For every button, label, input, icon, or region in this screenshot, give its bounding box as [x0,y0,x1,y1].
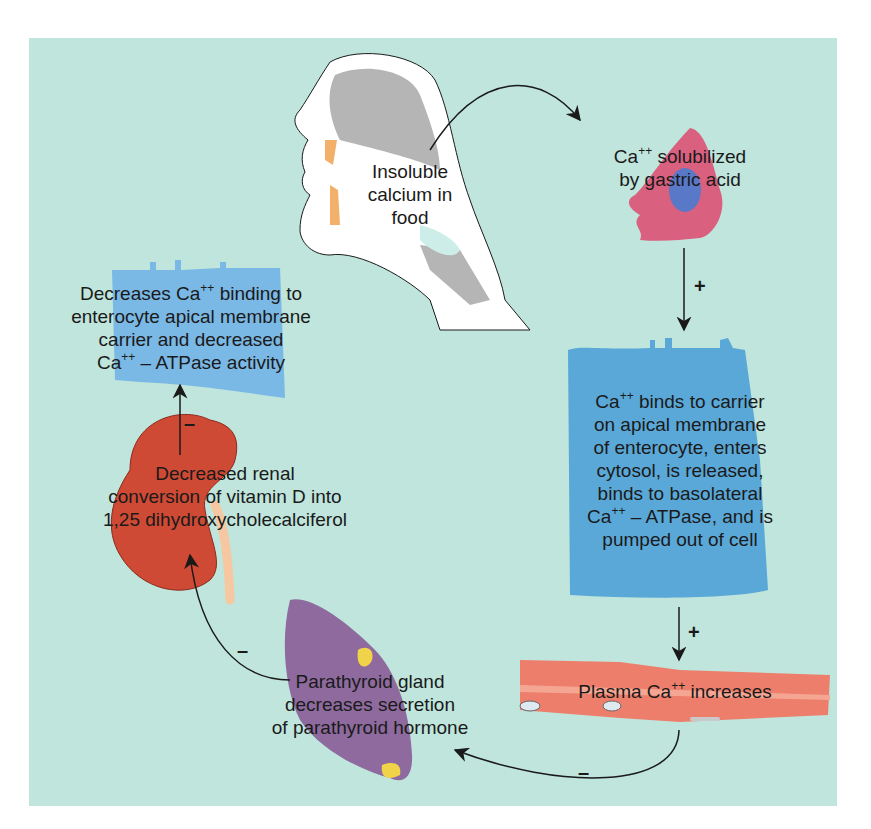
label-line: calcium in [350,183,470,206]
superscript: ++ [638,144,652,158]
label-line: decreases secretion [255,693,485,716]
text: Ca [587,506,611,527]
label-line: 1,25 dihydroxycholecalciferol [75,508,375,531]
label-enterocyte-transport: Ca++ binds to carrier on apical membrane… [570,390,790,551]
label-line: Insoluble [350,160,470,183]
label-renal-conversion: Decreased renal conversion of vitamin D … [75,462,375,531]
label-line: Decreases Ca++ binding to [60,282,322,305]
label-line: Decreased renal [75,462,375,485]
label-line: binds to basolateral [570,482,790,505]
label-line: on apical membrane [570,413,790,436]
label-line: Ca++ solubilized [580,145,780,168]
label-line: enterocyte apical membrane [60,305,322,328]
superscript: ++ [121,350,135,364]
label-line: of enterocyte, enters [570,436,790,459]
label-line: conversion of vitamin D into [75,485,375,508]
label-line: Ca++ – ATPase activity [60,351,322,374]
superscript: ++ [200,281,214,295]
text: solubilized [652,146,746,167]
text: – ATPase activity [135,352,285,373]
superscript: ++ [671,679,685,693]
text: binding to [214,283,302,304]
arrow-plasma-to-parathyroid [455,730,679,778]
label-line: cytosol, is released, [570,459,790,482]
label-plasma-calcium: Plasma Ca++ increases [560,680,790,703]
superscript: ++ [611,504,625,518]
label-line: food [350,206,470,229]
text: Ca [614,146,638,167]
label-enterocyte-effect: Decreases Ca++ binding to enterocyte api… [60,282,322,374]
label-line: carrier and decreased [60,328,322,351]
label-line: by gastric acid [580,168,780,191]
text: increases [685,681,772,702]
sign-plasma-parathyroid: – [578,762,589,782]
label-insoluble-calcium: Insoluble calcium in food [350,160,470,229]
text: Plasma Ca [578,681,671,702]
text: – ATPase, and is [625,506,773,527]
label-parathyroid: Parathyroid gland decreases secretion of… [255,670,485,739]
label-gastric-acid: Ca++ solubilized by gastric acid [580,145,780,191]
label-line: Parathyroid gland [255,670,485,693]
text: Ca [97,352,121,373]
label-line: pumped out of cell [570,528,790,551]
sign-kidney-enterocyte-effect: – [184,413,195,433]
sign-enterocyte-plasma: + [688,622,700,642]
label-line: Ca++ binds to carrier [570,390,790,413]
sign-parathyroid-kidney: – [237,640,248,660]
sign-stomach-enterocyte: + [694,276,706,296]
superscript: ++ [620,389,634,403]
label-line: of parathyroid hormone [255,716,485,739]
text: Decreases Ca [80,283,200,304]
text: Ca [595,391,619,412]
text: binds to carrier [634,391,765,412]
label-line: Ca++ – ATPase, and is [570,505,790,528]
